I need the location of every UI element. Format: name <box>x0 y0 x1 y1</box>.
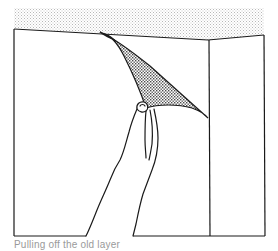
figure-caption: Pulling off the old layer <box>14 239 120 251</box>
hand <box>86 102 158 236</box>
right-wall-edge <box>264 35 265 236</box>
corner-line <box>209 40 210 236</box>
ceiling <box>14 8 264 40</box>
peeled-strip <box>99 32 208 118</box>
